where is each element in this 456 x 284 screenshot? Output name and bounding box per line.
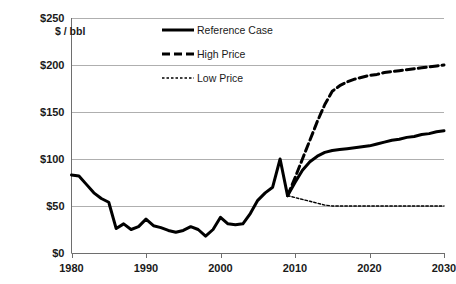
series-line-low-price [288, 196, 444, 206]
y-tick-label: $100 [40, 153, 64, 165]
x-axis-tick-labels: 198019902000201020202030 [59, 262, 456, 274]
y-tick-label: $150 [40, 106, 64, 118]
legend-label-low-price: Low Price [197, 72, 243, 84]
chart-canvas: $0$50$100$150$200$250 198019902000201020… [0, 0, 456, 284]
x-tick-label: 2020 [357, 262, 381, 274]
x-tick-label: 1990 [134, 262, 158, 274]
x-tick-label: 2010 [283, 262, 307, 274]
x-tick-label: 1980 [59, 262, 83, 274]
series-group [72, 65, 445, 236]
legend: Reference CaseHigh PriceLow Price [162, 24, 273, 84]
y-tick-label: $50 [46, 200, 64, 212]
series-line-high-price [288, 65, 444, 196]
y-tick-label: $0 [52, 247, 64, 259]
y-axis-tick-labels: $0$50$100$150$200$250 [40, 12, 64, 259]
y-tick-label: $200 [40, 59, 64, 71]
x-tick-label: 2030 [432, 262, 456, 274]
legend-label-high-price: High Price [197, 48, 246, 60]
series-line-reference-case [72, 131, 445, 236]
y-tick-label: $250 [40, 12, 64, 24]
legend-label-reference-case: Reference Case [197, 24, 273, 36]
gridlines-group [72, 19, 445, 254]
x-tick-label: 2000 [208, 262, 232, 274]
y-axis-unit-label: $ / bbl [55, 25, 85, 37]
oil-price-chart: $0$50$100$150$200$250 198019902000201020… [0, 0, 456, 284]
